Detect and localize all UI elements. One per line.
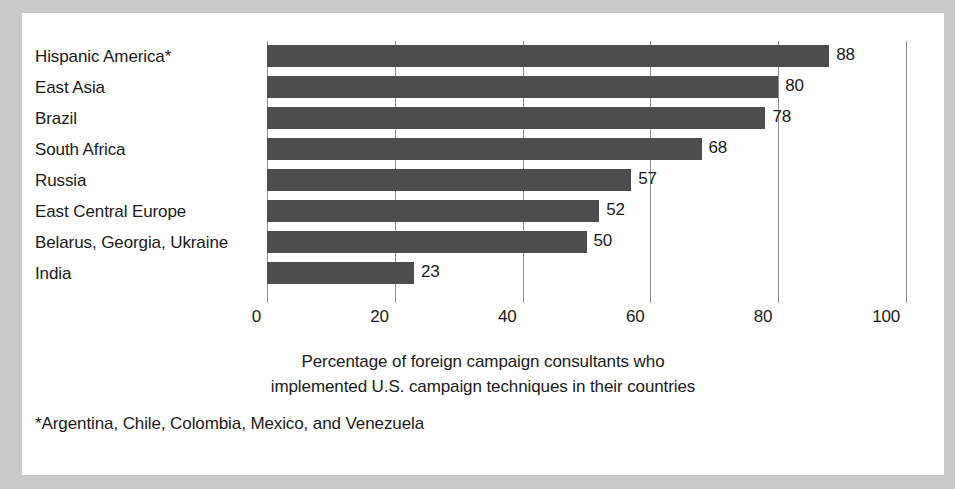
category-label: East Central Europe xyxy=(35,196,263,227)
bar xyxy=(267,231,587,253)
tick-label-100: 100 xyxy=(872,306,906,328)
bar-row: 50 xyxy=(267,227,906,258)
bar-chart: Hispanic America*East AsiaBrazilSouth Af… xyxy=(22,13,944,475)
caption-line: implemented U.S. campaign techniques in … xyxy=(22,374,944,399)
category-label: Brazil xyxy=(35,103,263,134)
bar-value-label: 52 xyxy=(606,199,625,221)
bar-row: 68 xyxy=(267,134,906,165)
plot-area: 8880786857525023 xyxy=(267,41,906,303)
bar-value-label: 68 xyxy=(709,137,728,159)
bar-value-label: 88 xyxy=(836,44,855,66)
figure-frame: Hispanic America*East AsiaBrazilSouth Af… xyxy=(0,0,955,489)
bar xyxy=(267,262,414,284)
category-label: Belarus, Georgia, Ukraine xyxy=(35,227,263,258)
category-label: Russia xyxy=(35,165,263,196)
chart-footnote: *Argentina, Chile, Colombia, Mexico, and… xyxy=(35,413,424,435)
x-axis-tick-labels: 020406080100 xyxy=(267,306,927,332)
bar-value-label: 50 xyxy=(594,230,613,252)
category-label: Hispanic America* xyxy=(35,41,263,72)
category-label: East Asia xyxy=(35,72,263,103)
bar-row: 80 xyxy=(267,72,906,103)
bar-value-label: 57 xyxy=(638,168,657,190)
category-label: South Africa xyxy=(35,134,263,165)
tick-label-0: 0 xyxy=(252,306,267,328)
bar xyxy=(267,200,599,222)
category-axis-labels: Hispanic America*East AsiaBrazilSouth Af… xyxy=(35,41,263,303)
gridline-100 xyxy=(906,41,907,303)
bar-row: 78 xyxy=(267,103,906,134)
tick-label-80: 80 xyxy=(754,306,779,328)
bar-value-label: 80 xyxy=(785,75,804,97)
bar xyxy=(267,45,829,67)
bar-row: 57 xyxy=(267,165,906,196)
tick-label-20: 20 xyxy=(370,306,395,328)
bar-row: 23 xyxy=(267,258,906,289)
chart-caption: Percentage of foreign campaign consultan… xyxy=(22,349,944,399)
bar xyxy=(267,107,765,129)
tick-label-40: 40 xyxy=(498,306,523,328)
category-label: India xyxy=(35,258,263,289)
bar xyxy=(267,169,631,191)
figure-panel: Hispanic America*East AsiaBrazilSouth Af… xyxy=(22,13,944,475)
bar-value-label: 23 xyxy=(421,261,440,283)
bar-row: 88 xyxy=(267,41,906,72)
bar-row: 52 xyxy=(267,196,906,227)
bar xyxy=(267,76,778,98)
bar-value-label: 78 xyxy=(772,106,791,128)
caption-line: Percentage of foreign campaign consultan… xyxy=(22,349,944,374)
tick-label-60: 60 xyxy=(626,306,651,328)
bar xyxy=(267,138,702,160)
